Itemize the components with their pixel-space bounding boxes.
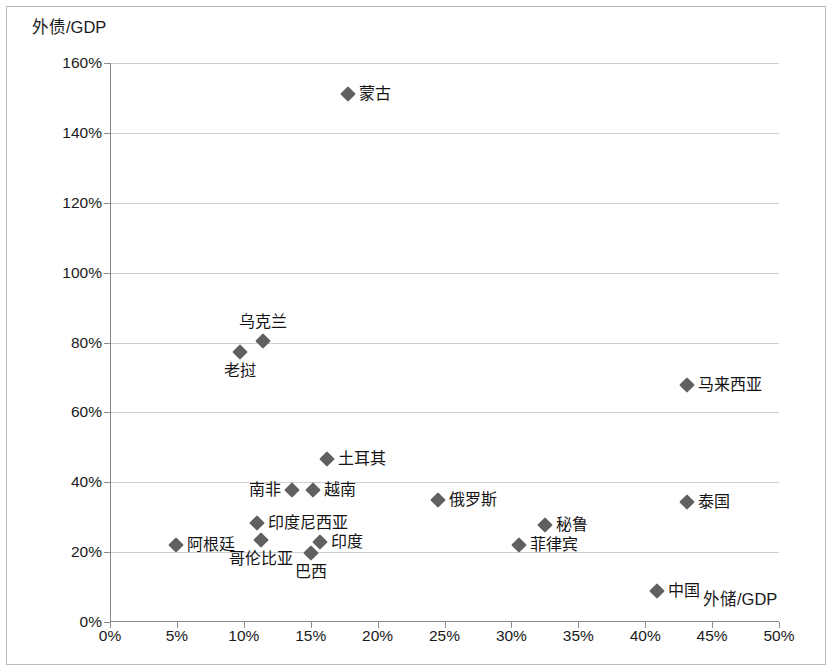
x-axis-tick-label: 40% <box>630 628 661 644</box>
x-axis-tick <box>578 622 579 628</box>
x-axis-tick <box>110 622 111 628</box>
x-axis-tick-label: 0% <box>99 628 121 644</box>
plot-area: 蒙古乌克兰老挝马来西亚土耳其南非越南俄罗斯泰国印度尼西亚秘鲁哥伦比亚印度阿根廷菲… <box>110 63 779 622</box>
x-axis-tick <box>511 622 512 628</box>
y-axis-tick-label: 80% <box>71 335 102 351</box>
x-axis-tick-label: 35% <box>563 628 594 644</box>
x-axis-tick-label: 45% <box>697 628 728 644</box>
plot-axes <box>110 63 779 622</box>
y-axis-tick-label: 100% <box>62 265 102 281</box>
x-axis-tick <box>378 622 379 628</box>
y-axis-title: 外债/GDP <box>32 14 106 38</box>
x-axis-tick <box>311 622 312 628</box>
x-axis-tick <box>645 622 646 628</box>
x-axis-tick <box>244 622 245 628</box>
y-axis-tick-label: 120% <box>62 195 102 211</box>
x-axis-tick <box>177 622 178 628</box>
y-axis-tick-label: 160% <box>62 55 102 71</box>
y-axis-tick-label: 140% <box>62 125 102 141</box>
x-axis-tick <box>779 622 780 628</box>
x-axis-tick-label: 15% <box>295 628 326 644</box>
x-axis-tick-label: 50% <box>763 628 794 644</box>
x-axis-tick-label: 10% <box>228 628 259 644</box>
x-axis-tick-labels: 0%5%10%15%20%25%30%35%40%45%50% <box>110 628 779 654</box>
x-axis-tick-label: 20% <box>362 628 393 644</box>
y-axis-tick-label: 60% <box>71 404 102 420</box>
y-axis-tick-label: 40% <box>71 474 102 490</box>
y-axis-tick-labels: 0%20%40%60%80%100%120%140%160% <box>24 63 102 622</box>
x-axis-tick-label: 25% <box>429 628 460 644</box>
x-axis-tick <box>712 622 713 628</box>
x-axis-tick-label: 5% <box>166 628 188 644</box>
x-axis-tick-label: 30% <box>496 628 527 644</box>
y-axis-tick-label: 20% <box>71 544 102 560</box>
chart-figure: 外债/GDP 外储/GDP 0%20%40%60%80%100%120%140%… <box>0 0 833 672</box>
x-axis-tick <box>445 622 446 628</box>
